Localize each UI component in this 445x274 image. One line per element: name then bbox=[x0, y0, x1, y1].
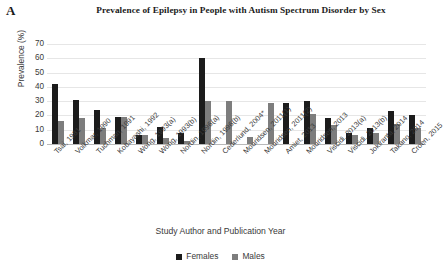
y-axis-tick: 40 bbox=[35, 83, 44, 91]
y-axis-tick: 60 bbox=[35, 54, 44, 62]
bar-group bbox=[47, 44, 68, 144]
y-axis-tick: 70 bbox=[35, 40, 44, 48]
y-axis-tick: 20 bbox=[35, 111, 44, 119]
legend-swatch-males-icon bbox=[232, 254, 238, 260]
panel-letter: A bbox=[6, 4, 15, 17]
x-axis-title: Study Author and Publication Year bbox=[0, 226, 441, 236]
y-axis-tick: 30 bbox=[35, 97, 44, 105]
chart-legend: Females Males bbox=[0, 252, 441, 261]
legend-label-males: Males bbox=[242, 252, 264, 261]
legend-item-males: Males bbox=[232, 252, 264, 261]
legend-swatch-females-icon bbox=[176, 254, 182, 260]
y-axis-tick: 10 bbox=[35, 126, 44, 134]
legend-label-females: Females bbox=[186, 252, 218, 261]
y-axis-tick: 50 bbox=[35, 69, 44, 77]
legend-item-females: Females bbox=[176, 252, 218, 261]
x-axis-tick-labels: Tsai, 1981Volkmar, 1990Tuchman, 1991Koba… bbox=[0, 148, 441, 224]
chart-title: Prevalence of Epilepsy in People with Au… bbox=[46, 5, 436, 16]
y-axis-tick: 0 bbox=[39, 140, 44, 148]
y-axis-title: Prevalence (%) bbox=[17, 14, 26, 104]
